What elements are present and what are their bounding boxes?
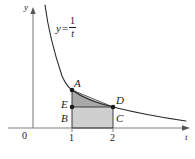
equation-label: y = 1 t (56, 16, 76, 39)
fraction-numerator: 1 (69, 16, 76, 26)
math-figure: y = 1 t y t 0 1 2 A B C D E (0, 0, 195, 159)
origin-label: 0 (22, 131, 27, 141)
point-label-a: A (74, 78, 81, 89)
equation-lhs: y (56, 22, 61, 34)
point-marker-e (70, 105, 75, 110)
point-label-b: B (61, 113, 68, 124)
y-axis-label: y (24, 3, 28, 12)
y-axis-arrowhead (30, 7, 35, 14)
shaded-rectangle-bcde (72, 107, 113, 128)
point-label-e: E (61, 99, 68, 110)
equation-equals-sign: = (62, 22, 68, 34)
point-label-c: C (116, 113, 123, 124)
x-axis-label: t (185, 133, 188, 142)
x-tick-label-2: 2 (110, 133, 115, 143)
x-tick-label-1: 1 (69, 133, 74, 143)
figure-canvas (0, 0, 195, 159)
point-label-d: D (116, 95, 124, 106)
fraction-denominator: t (70, 29, 75, 39)
equation-fraction: 1 t (69, 16, 76, 39)
x-axis-arrowhead (182, 125, 190, 131)
point-marker-d (111, 105, 116, 110)
